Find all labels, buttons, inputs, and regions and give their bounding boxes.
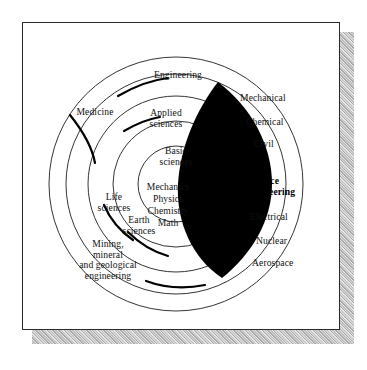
label-life-sciences: Life sciences — [91, 192, 137, 213]
label-applied-sciences: Applied sciences — [140, 108, 192, 129]
leader-mining — [146, 281, 205, 287]
label-mining: Mining, mineral and geological engineeri… — [61, 239, 155, 281]
label-electrical: Electrical — [250, 212, 306, 223]
label-basic-sciences: Basic sciences — [152, 146, 200, 167]
label-mechanical: Mechanical — [240, 93, 298, 104]
label-highlight-engineering: Engineering — [244, 187, 314, 198]
label-math: Math — [148, 218, 188, 229]
label-civil: Civil — [254, 139, 298, 150]
leader-engineering — [118, 78, 168, 96]
label-chemical: Chemical — [246, 117, 302, 128]
leader-medicine — [70, 115, 95, 163]
label-nuclear: Nuclear — [256, 236, 304, 247]
label-physics: Physics — [145, 194, 191, 205]
label-medicine: Medicine — [68, 107, 122, 118]
figure-root: Engineering Medicine Applied sciences Ba… — [0, 0, 367, 370]
label-chemistry: Chemistry — [143, 206, 193, 217]
label-mechanics: Mechanics — [143, 182, 193, 193]
label-aerospace: Aerospace — [252, 258, 308, 269]
label-engineering: Engineering — [141, 70, 215, 81]
label-highlight-science: Science — [248, 176, 312, 187]
